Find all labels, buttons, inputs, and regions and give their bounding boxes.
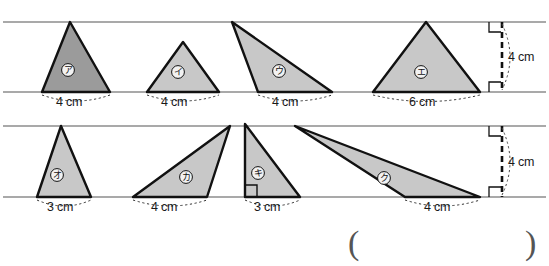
answer-bracket-close: ): [525, 226, 536, 260]
triangle-i-shape: [147, 42, 219, 92]
top-row-right-angle-lower: [489, 82, 501, 92]
triangles-figure: [0, 0, 549, 266]
triangle-i-label: イ: [172, 68, 184, 77]
bottom-row-right-angle-upper: [489, 126, 501, 136]
triangle-i-base-arc: [147, 95, 219, 101]
triangle-e-shape: [373, 22, 480, 92]
triangle-u-label: ウ: [273, 67, 285, 76]
top-row-right-angle-upper: [489, 22, 501, 32]
triangle-ki-base-arc: [245, 200, 300, 206]
triangle-a-base-arc: [42, 95, 110, 101]
triangle-o-base-arc: [37, 200, 91, 206]
triangle-u-shape: [232, 22, 332, 92]
bottom-row-right-angle-lower: [489, 187, 501, 197]
triangle-u-base-arc: [258, 95, 332, 101]
triangle-ku-shape: [295, 126, 480, 197]
triangle-o-shape: [37, 126, 91, 197]
triangle-ki-label: キ: [252, 169, 264, 178]
triangle-a-label: ア: [62, 66, 74, 75]
top-row-group: [3, 22, 546, 102]
triangle-ka-label: カ: [180, 173, 192, 182]
triangle-e-base-arc: [373, 95, 480, 102]
triangle-ka-base-arc: [133, 200, 207, 206]
triangle-o-label: オ: [51, 171, 63, 180]
triangle-e-label: エ: [415, 68, 427, 77]
triangle-ka-shape: [133, 126, 230, 197]
answer-bracket-open: (: [348, 226, 359, 260]
triangle-ku-label: ク: [378, 174, 390, 183]
triangle-a-shape: [42, 22, 110, 92]
worksheet-canvas: ア 4 cm イ 4 cm ウ 4 cm エ 6 cm 4 cm オ 3 cm …: [0, 0, 549, 266]
triangle-ki-shape: [245, 124, 300, 197]
bottom-row-group: [3, 124, 546, 206]
triangle-ku-base-arc: [405, 200, 480, 206]
